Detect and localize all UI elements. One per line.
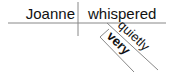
verb-word: whispered [87, 5, 156, 22]
subject-word: Joanne [26, 5, 75, 22]
sentence-diagram: Joanne whispered quietly very [0, 0, 172, 73]
